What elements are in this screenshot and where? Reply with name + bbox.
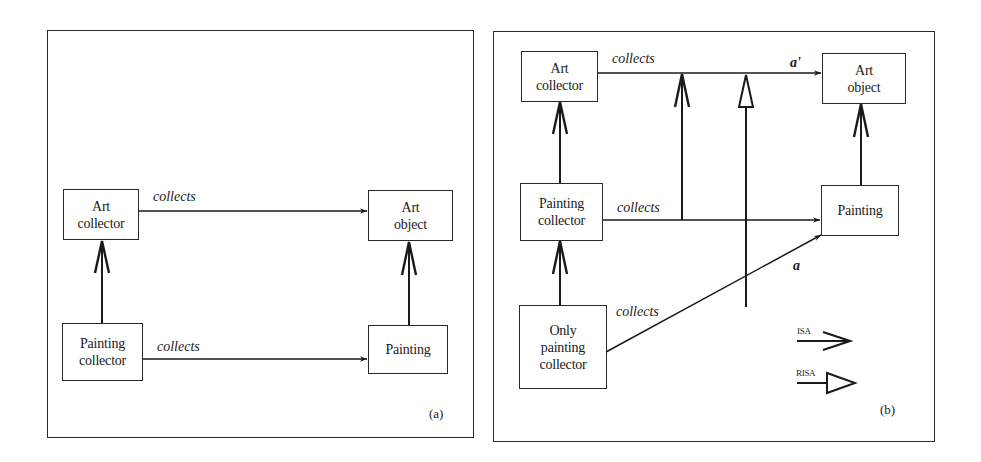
- node-label-line: collector: [77, 215, 124, 232]
- node-b-painting: Painting: [821, 185, 899, 236]
- panel-caption-b: (b): [880, 402, 895, 417]
- node-b-art-object: Art object: [822, 53, 906, 104]
- node-label-line: Painting: [539, 195, 584, 212]
- node-a-art-collector: Art collector: [63, 189, 139, 240]
- edge-label-collects: collects: [617, 200, 660, 216]
- edge-label-collects: collects: [157, 339, 200, 355]
- legend-isa-label: ISA: [797, 326, 811, 336]
- node-b-art-collector: Art collector: [521, 51, 598, 102]
- node-label-line: painting: [541, 339, 585, 356]
- node-label-line: collector: [79, 352, 126, 369]
- edge-label-collects: collects: [616, 304, 659, 320]
- edge-label-collects: collects: [153, 189, 196, 205]
- edge-label-collects: collects: [612, 51, 655, 67]
- node-label-line: object: [394, 216, 427, 233]
- panel-caption-a: (a): [429, 406, 443, 421]
- node-label-line: Painting: [837, 202, 882, 219]
- node-label-line: Art: [401, 199, 419, 216]
- node-label-line: Art: [92, 198, 110, 215]
- node-label-line: collector: [539, 356, 586, 373]
- legend-risa-label: RISA: [796, 368, 815, 378]
- node-a-art-object: Art object: [368, 190, 453, 241]
- node-label-line: Painting: [80, 335, 125, 352]
- node-a-painting-collector: Painting collector: [62, 323, 143, 381]
- node-b-only-painting-collector: Only painting collector: [519, 305, 607, 389]
- node-a-painting: Painting: [368, 325, 448, 374]
- node-label-line: collector: [536, 77, 583, 94]
- node-b-painting-collector: Painting collector: [520, 183, 603, 241]
- node-label-line: object: [847, 79, 880, 96]
- node-label-line: Art: [855, 62, 873, 79]
- node-label-line: Painting: [385, 341, 430, 358]
- edge-label-a-prime: a': [790, 55, 801, 71]
- node-label-line: collector: [538, 212, 585, 229]
- edge-label-a: a: [793, 258, 800, 274]
- node-label-line: Only: [549, 322, 576, 339]
- node-label-line: Art: [550, 60, 568, 77]
